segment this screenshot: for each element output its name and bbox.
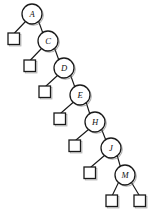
leaf-square (8, 33, 20, 45)
tree-edge (46, 76, 58, 87)
tree-edge (15, 22, 26, 34)
tree-canvas: ACDEHJM (0, 0, 152, 220)
tree-node-label: E (76, 90, 83, 100)
leaf-square (106, 195, 118, 207)
tree-node-label: M (120, 170, 129, 180)
leaf-square (84, 167, 96, 179)
leaf-square (54, 113, 66, 125)
tree-node-label: A (28, 9, 35, 19)
leaf-square (134, 195, 146, 207)
leaf-square (69, 140, 81, 152)
binary-search-tree-diagram: ACDEHJM (0, 0, 152, 220)
tree-edge (61, 103, 73, 114)
tree-edge (113, 183, 119, 196)
tree-edge (76, 130, 89, 141)
tree-edge (91, 156, 105, 168)
leaf-square (24, 60, 36, 72)
leaf-square (39, 86, 51, 98)
tree-node-label: D (60, 63, 68, 73)
tree-node-label: C (45, 36, 51, 46)
tree-node-label: H (91, 117, 99, 127)
tree-edge (31, 49, 42, 61)
